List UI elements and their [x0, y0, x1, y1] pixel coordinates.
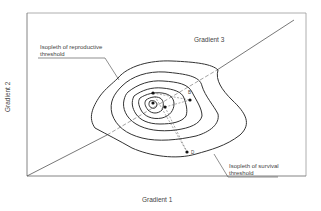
- connector-a-b: [153, 93, 190, 100]
- connector-a-d: [153, 93, 187, 152]
- reproductive-annotation-line2: threshold: [40, 51, 102, 58]
- gradient3-line-lower: [27, 135, 107, 176]
- point-b: [188, 98, 191, 101]
- reproductive-annotation-line1: Isopleth of reproductive: [40, 44, 102, 51]
- contour-survival: [91, 61, 246, 157]
- point-center: [151, 101, 154, 104]
- point-c: [163, 105, 166, 108]
- point-d-label: D: [191, 149, 194, 156]
- survival-annotation-line1: Isopleth of survival: [229, 163, 279, 170]
- reproductive-leader: [38, 58, 119, 80]
- point-b-label: B: [188, 89, 191, 96]
- point-d: [185, 150, 188, 153]
- contour-6: [145, 97, 163, 113]
- connector-c-d: [165, 107, 187, 152]
- gradient3-label: Gradient 3: [194, 36, 224, 43]
- point-a: [151, 91, 154, 94]
- survival-annotation: Isopleth of survival threshold: [229, 163, 279, 177]
- survival-annotation-line2: threshold: [229, 170, 279, 177]
- gradient3-line-upper: [217, 20, 294, 70]
- y-axis-label: Gradient 2: [4, 82, 11, 112]
- reproductive-annotation: Isopleth of reproductive threshold: [40, 44, 102, 58]
- isopleth-diagram: [0, 0, 321, 211]
- x-axis-label: Gradient 1: [142, 196, 172, 203]
